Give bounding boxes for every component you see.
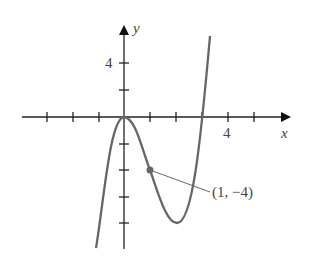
y-axis-label: y [133,21,140,36]
leader-line [150,170,210,192]
y-arrow-icon [119,25,129,35]
point-label: (1, −4) [212,185,253,200]
y-tick-label-4: 4 [105,56,113,71]
x-arrow-icon [281,112,291,122]
x-tick-label-4: 4 [223,126,231,141]
point-marker [147,167,154,174]
chart-canvas [0,0,309,259]
cubic-curve [96,36,210,248]
x-axis-label: x [281,126,288,141]
